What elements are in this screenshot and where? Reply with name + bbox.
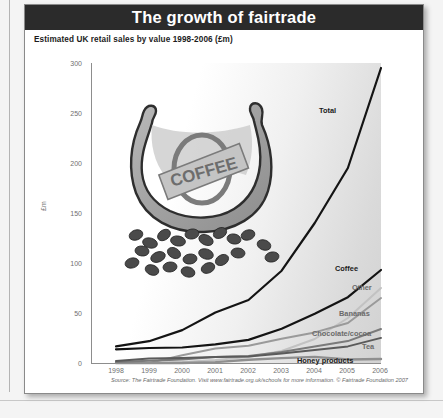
page-root: The growth of fairtrade Estimated UK ret… (0, 0, 443, 418)
series-label-chocolate: Chocolate/cocoa (312, 329, 371, 338)
y-tick-150: 150 (56, 210, 82, 217)
x-tick-2000: 2000 (174, 367, 190, 374)
x-tick-2006: 2006 (372, 367, 388, 374)
series-path-total (116, 68, 381, 346)
y-tick-200: 200 (56, 160, 82, 167)
series-label-honey: Honey products (297, 356, 353, 365)
source-note: Source: The Fairtrade Foundation. Visit … (111, 377, 408, 383)
y-tick-50: 50 (56, 310, 82, 317)
series-label-coffee: Coffee (335, 264, 358, 273)
chart-subtitle: Estimated UK retail sales by value 1998-… (34, 35, 233, 44)
page-gutter-rule-left (9, 0, 10, 392)
y-tick-250: 250 (56, 110, 82, 117)
y-axis-title: £m (40, 201, 47, 211)
page-gutter-rule-bottom (0, 400, 443, 401)
series-label-total: Total (319, 106, 336, 115)
series-label-other: Other (352, 283, 372, 292)
x-tick-2005: 2005 (339, 367, 355, 374)
series-label-tea: Tea (362, 342, 374, 351)
x-tick-1999: 1999 (141, 367, 157, 374)
x-tick-1998: 1998 (108, 367, 124, 374)
y-tick-300: 300 (56, 60, 82, 67)
line-chart: COFFEE (34, 51, 414, 371)
infographic-card: The growth of fairtrade Estimated UK ret… (24, 4, 424, 394)
x-tick-2002: 2002 (240, 367, 256, 374)
y-tick-100: 100 (56, 260, 82, 267)
x-tick-2004: 2004 (306, 367, 322, 374)
y-tick-0: 0 (56, 360, 82, 367)
series-lines (91, 63, 381, 363)
x-tick-2001: 2001 (207, 367, 223, 374)
series-label-bananas: Bananas (339, 309, 370, 318)
title-bar: The growth of fairtrade (25, 5, 423, 30)
page-title: The growth of fairtrade (132, 8, 316, 27)
x-tick-2003: 2003 (273, 367, 289, 374)
